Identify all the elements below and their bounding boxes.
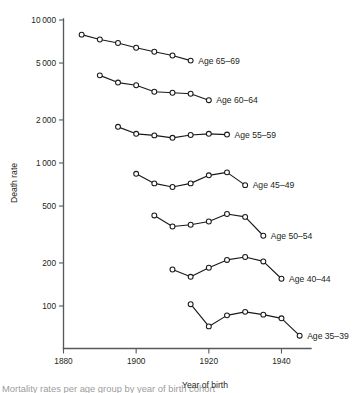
series-age-60-64: Age 60–64 xyxy=(97,73,258,105)
data-point xyxy=(170,224,175,229)
data-point xyxy=(206,265,211,270)
data-point xyxy=(79,32,84,37)
data-point xyxy=(152,213,157,218)
data-point xyxy=(116,124,121,129)
data-point xyxy=(243,183,248,188)
x-axis: 1880190019201940 xyxy=(54,349,311,366)
data-point xyxy=(188,181,193,186)
data-point xyxy=(225,170,230,175)
data-point xyxy=(279,276,284,281)
data-point xyxy=(134,45,139,50)
data-point xyxy=(152,181,157,186)
data-point xyxy=(225,132,230,137)
death-rate-line-chart: 1002005001 0002 0005 00010 000 188019001… xyxy=(0,0,359,393)
data-point xyxy=(225,313,230,318)
data-point xyxy=(206,131,211,136)
series-label: Age 35–39 xyxy=(307,331,349,341)
data-point xyxy=(225,257,230,262)
y-tick-label: 10 000 xyxy=(31,15,56,25)
data-point xyxy=(206,324,211,329)
y-axis: 1002005001 0002 0005 00010 000 xyxy=(31,15,63,348)
y-tick-label: 1 000 xyxy=(36,158,57,168)
data-point xyxy=(243,255,248,260)
caption-strip: Mortality rates per age group by year of… xyxy=(0,384,359,393)
series-label: Age 50–54 xyxy=(271,231,313,241)
data-point xyxy=(297,333,302,338)
data-point xyxy=(170,90,175,95)
chart-figure: 1002005001 0002 0005 00010 000 188019001… xyxy=(0,0,359,393)
x-tick-label: 1900 xyxy=(127,356,146,366)
data-point xyxy=(152,133,157,138)
series-label: Age 40–44 xyxy=(289,274,331,284)
data-point xyxy=(206,98,211,103)
series-label: Age 60–64 xyxy=(216,95,258,105)
data-point xyxy=(188,91,193,96)
data-point xyxy=(170,267,175,272)
data-point xyxy=(261,259,266,264)
data-point xyxy=(134,171,139,176)
data-point xyxy=(188,302,193,307)
data-point xyxy=(206,173,211,178)
x-tick-label: 1920 xyxy=(200,356,219,366)
series-age-55-59: Age 55–59 xyxy=(116,124,277,140)
data-point xyxy=(116,80,121,85)
y-tick-label: 100 xyxy=(42,301,56,311)
data-point xyxy=(134,131,139,136)
data-point xyxy=(188,222,193,227)
data-point xyxy=(170,185,175,190)
data-point xyxy=(97,37,102,42)
data-point xyxy=(152,89,157,94)
series-age-40-44: Age 40–44 xyxy=(170,255,331,284)
x-tick-label: 1940 xyxy=(272,356,291,366)
data-point xyxy=(188,133,193,138)
y-tick-label: 2 000 xyxy=(36,115,57,125)
series-age-50-54: Age 50–54 xyxy=(152,212,313,241)
x-tick-label: 1880 xyxy=(54,356,73,366)
data-point xyxy=(170,135,175,140)
data-point xyxy=(261,312,266,317)
data-point xyxy=(243,214,248,219)
data-point xyxy=(116,41,121,46)
data-point xyxy=(279,316,284,321)
y-tick-label: 200 xyxy=(42,258,56,268)
data-point xyxy=(188,274,193,279)
data-point xyxy=(134,83,139,88)
data-point xyxy=(170,53,175,58)
caption-text: Mortality rates per age group by year of… xyxy=(2,384,215,393)
data-point xyxy=(243,309,248,314)
data-point xyxy=(206,219,211,224)
series-label: Age 65–69 xyxy=(198,56,240,66)
series-age-45-49: Age 45–49 xyxy=(134,170,295,190)
y-tick-label: 500 xyxy=(42,201,56,211)
data-point xyxy=(188,58,193,63)
series-age-35-39: Age 35–39 xyxy=(188,302,349,341)
data-point xyxy=(261,233,266,238)
data-point xyxy=(97,73,102,78)
series-age-65-69: Age 65–69 xyxy=(79,32,240,66)
y-axis-title: Death rate xyxy=(9,163,19,203)
plot-area: Age 65–69Age 60–64Age 55–59Age 45–49Age … xyxy=(79,32,349,341)
y-tick-label: 5 000 xyxy=(36,58,57,68)
series-label: Age 55–59 xyxy=(234,130,276,140)
data-point xyxy=(225,212,230,217)
series-label: Age 45–49 xyxy=(253,180,295,190)
data-point xyxy=(152,49,157,54)
